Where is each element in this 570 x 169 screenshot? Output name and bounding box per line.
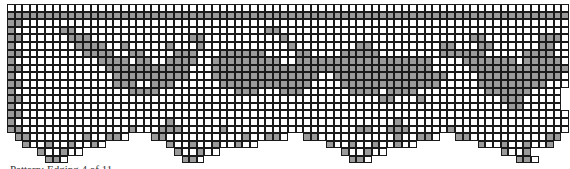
open-mesh (334, 88, 342, 96)
open-mesh (204, 110, 212, 118)
open-mesh (174, 27, 182, 35)
open-mesh (485, 27, 493, 35)
empty-space (258, 148, 266, 156)
open-mesh (182, 148, 190, 156)
open-mesh (379, 50, 387, 58)
filled-block (356, 42, 364, 50)
open-mesh (561, 50, 569, 58)
empty-space (554, 156, 562, 164)
filled-block (166, 42, 174, 50)
open-mesh (91, 103, 99, 111)
open-mesh (288, 57, 296, 65)
open-mesh (280, 50, 288, 58)
open-mesh (341, 103, 349, 111)
grid-row (7, 42, 569, 50)
open-mesh (53, 110, 61, 118)
open-mesh (409, 133, 417, 141)
open-mesh (425, 42, 433, 50)
open-mesh (15, 57, 23, 65)
open-mesh (68, 65, 76, 73)
open-mesh (265, 42, 273, 50)
filled-block (280, 34, 288, 42)
filled-block (372, 141, 380, 149)
open-mesh (463, 103, 471, 111)
open-mesh (288, 19, 296, 27)
open-mesh (508, 141, 516, 149)
filled-block (379, 12, 387, 20)
open-mesh (546, 4, 554, 12)
filled-block (83, 34, 91, 42)
open-mesh (212, 133, 220, 141)
empty-space (242, 148, 250, 156)
open-mesh (561, 126, 569, 134)
filled-block (478, 57, 486, 65)
open-mesh (75, 148, 83, 156)
open-mesh (409, 118, 417, 126)
open-mesh (212, 34, 220, 42)
open-mesh (60, 103, 68, 111)
open-mesh (250, 110, 258, 118)
open-mesh (379, 126, 387, 134)
filled-block (273, 65, 281, 73)
empty-space (113, 148, 121, 156)
open-mesh (235, 110, 243, 118)
open-mesh (432, 88, 440, 96)
open-mesh (334, 103, 342, 111)
empty-space (113, 141, 121, 149)
open-mesh (463, 126, 471, 134)
filled-block (113, 133, 121, 141)
open-mesh (508, 50, 516, 58)
open-mesh (220, 118, 228, 126)
filled-block (280, 72, 288, 80)
open-mesh (296, 118, 304, 126)
empty-space (447, 156, 455, 164)
empty-space (432, 156, 440, 164)
open-mesh (75, 19, 83, 27)
open-mesh (227, 34, 235, 42)
open-mesh (485, 141, 493, 149)
open-mesh (113, 50, 121, 58)
open-mesh (53, 141, 61, 149)
open-mesh (303, 4, 311, 12)
filled-block (60, 148, 68, 156)
empty-space (250, 156, 258, 164)
filled-block (204, 12, 212, 20)
open-mesh (242, 118, 250, 126)
open-mesh (174, 95, 182, 103)
open-mesh (204, 34, 212, 42)
open-mesh (212, 118, 220, 126)
open-mesh (334, 133, 342, 141)
filled-block (425, 65, 433, 73)
filled-block (98, 57, 106, 65)
empty-space (326, 156, 334, 164)
filled-block (349, 50, 357, 58)
open-mesh (288, 103, 296, 111)
open-mesh (212, 80, 220, 88)
filled-block (136, 72, 144, 80)
empty-space (151, 141, 159, 149)
open-mesh (37, 118, 45, 126)
empty-space (258, 156, 266, 164)
open-mesh (485, 103, 493, 111)
open-mesh (106, 126, 114, 134)
filled-block (341, 80, 349, 88)
open-mesh (387, 4, 395, 12)
open-mesh (455, 65, 463, 73)
filled-block (227, 12, 235, 20)
open-mesh (288, 118, 296, 126)
open-mesh (485, 118, 493, 126)
filled-block (7, 27, 15, 35)
open-mesh (539, 95, 547, 103)
open-mesh (30, 27, 38, 35)
open-mesh (349, 133, 357, 141)
filled-block (15, 50, 23, 58)
open-mesh (53, 80, 61, 88)
open-mesh (174, 4, 182, 12)
open-mesh (364, 4, 372, 12)
grid-row (7, 88, 569, 96)
open-mesh (182, 88, 190, 96)
open-mesh (151, 110, 159, 118)
open-mesh (417, 110, 425, 118)
filled-block (394, 57, 402, 65)
filled-block (98, 50, 106, 58)
